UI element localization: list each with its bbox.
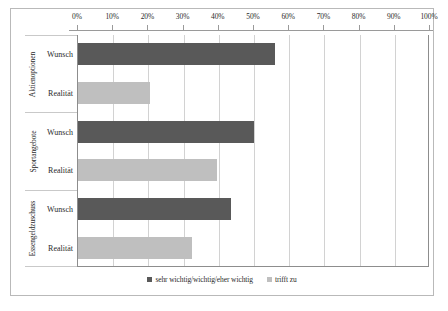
x-axis-tick-label: 50% (233, 12, 273, 21)
x-axis-tick-label: 20% (127, 12, 167, 21)
gridline (395, 35, 396, 266)
gridline (113, 35, 114, 266)
legend-item-2[interactable]: trifft zu (267, 275, 297, 284)
chart-legend: sehr wichtig/wichtig/eher wichtigtrifft … (11, 275, 433, 284)
x-axis-line (69, 30, 433, 31)
y-axis-group-label-wrapper: Essengeldzuschuss (25, 191, 41, 266)
bar (78, 121, 254, 143)
x-axis-tick-label: 0% (57, 12, 97, 21)
x-axis-tick-label: 90% (374, 12, 414, 21)
y-axis-group-2: Sportangebote (25, 112, 77, 189)
y-axis-subcategory-label: Wunsch (37, 127, 73, 136)
x-axis-tick-label: 70% (303, 12, 343, 21)
bar (78, 198, 231, 220)
bar (78, 237, 192, 259)
x-axis-tick-label: 100% (409, 12, 448, 21)
y-axis-group-3: Essengeldzuschuss (25, 190, 77, 267)
legend-item-1[interactable]: sehr wichtig/wichtig/eher wichtig (147, 275, 253, 284)
y-axis-subcategory-label: Realität (37, 166, 73, 175)
bar (78, 43, 275, 65)
gridline (148, 35, 149, 266)
y-axis-subcategory-label: Realität (37, 243, 73, 252)
bar (78, 82, 150, 104)
gridline (360, 35, 361, 266)
x-axis-labels: 0%10%20%30%40%50%60%70%80%90%100% (11, 9, 433, 31)
y-axis-group-1: Aktienoptionen (25, 35, 77, 112)
gridline (184, 35, 185, 266)
gridline (324, 35, 325, 266)
x-axis-tick-label: 40% (198, 12, 238, 21)
y-axis-group-label-wrapper: Aktienoptionen (25, 36, 41, 112)
x-axis-tick-label: 60% (268, 12, 308, 21)
legend-swatch-icon (147, 277, 152, 282)
gridline (289, 35, 290, 266)
gridline (254, 35, 255, 266)
y-axis-subcategory-label: Wunsch (37, 50, 73, 59)
y-axis-group-label-wrapper: Sportangebote (25, 113, 41, 189)
legend-label: trifft zu (275, 275, 297, 284)
legend-label: sehr wichtig/wichtig/eher wichtig (155, 275, 253, 284)
plot-area (77, 35, 429, 267)
y-axis-categories: AktienoptionenWunschRealitätSportangebot… (25, 35, 77, 267)
x-axis-tick-label: 30% (163, 12, 203, 21)
y-axis-subcategory-label: Wunsch (37, 205, 73, 214)
legend-swatch-icon (267, 277, 272, 282)
bar (78, 159, 217, 181)
chart-figure: 0%10%20%30%40%50%60%70%80%90%100% Aktien… (10, 8, 434, 296)
x-axis-tick-label: 10% (92, 12, 132, 21)
gridline (219, 35, 220, 266)
y-axis-subcategory-label: Realität (37, 89, 73, 98)
x-axis-tick-label: 80% (339, 12, 379, 21)
